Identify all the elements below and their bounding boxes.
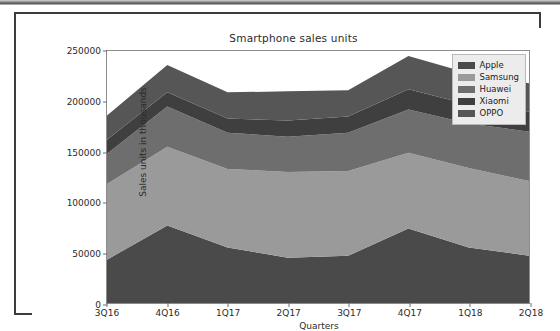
legend-swatch-icon: [458, 98, 475, 105]
y-tick-mark: [103, 254, 107, 255]
y-tick-mark: [103, 203, 107, 204]
x-tick-label: 2Q18: [519, 308, 543, 318]
legend-item-label: Samsung: [480, 73, 519, 82]
x-tick-label: 3Q16: [95, 308, 119, 318]
document-frame: Smartphone sales units 05000010000015000…: [14, 12, 541, 315]
legend-item-label: Huawei: [480, 85, 512, 94]
y-tick-label: 50000: [72, 249, 101, 259]
x-tick-mark: [228, 303, 229, 307]
chart-figure: Smartphone sales units 05000010000015000…: [32, 28, 555, 327]
legend-swatch-icon: [458, 62, 475, 69]
window-top-strip: [0, 0, 560, 5]
legend-item-apple[interactable]: Apple: [458, 60, 519, 71]
y-tick-mark: [103, 101, 107, 102]
legend-item-label: OPPO: [480, 109, 504, 118]
x-tick-mark: [531, 303, 532, 307]
x-tick-mark: [288, 303, 289, 307]
y-tick-label: 150000: [67, 148, 101, 158]
x-tick-label: 2Q17: [277, 308, 301, 318]
legend-item-label: Apple: [480, 61, 504, 70]
y-axis-label: Sales units in thousands: [138, 62, 148, 222]
x-tick-mark: [409, 303, 410, 307]
legend-item-label: Xiaomi: [480, 97, 509, 106]
x-tick-mark: [107, 303, 108, 307]
x-tick-label: 4Q16: [155, 308, 179, 318]
x-tick-label: 1Q18: [458, 308, 482, 318]
x-tick-mark: [349, 303, 350, 307]
x-axis-label: Quarters: [107, 321, 531, 331]
x-tick-mark: [470, 303, 471, 307]
legend-swatch-icon: [458, 86, 475, 93]
y-tick-label: 250000: [67, 46, 101, 56]
legend-item-huawei[interactable]: Huawei: [458, 84, 519, 95]
legend-swatch-icon: [458, 74, 475, 81]
y-tick-label: 100000: [67, 198, 101, 208]
legend-item-xiaomi[interactable]: Xiaomi: [458, 96, 519, 107]
chart-title: Smartphone sales units: [32, 32, 555, 44]
y-tick-mark: [103, 152, 107, 153]
x-tick-mark: [167, 303, 168, 307]
y-tick-mark: [103, 51, 107, 52]
plot-area: 050000100000150000200000250000 3Q164Q161…: [106, 50, 530, 304]
x-tick-label: 4Q17: [398, 308, 422, 318]
chart-legend[interactable]: AppleSamsungHuaweiXiaomiOPPO: [452, 54, 526, 125]
x-tick-label: 1Q17: [216, 308, 240, 318]
legend-item-samsung[interactable]: Samsung: [458, 72, 519, 83]
y-tick-label: 200000: [67, 97, 101, 107]
x-tick-label: 3Q17: [337, 308, 361, 318]
legend-swatch-icon: [458, 110, 475, 117]
legend-item-oppo[interactable]: OPPO: [458, 108, 519, 119]
